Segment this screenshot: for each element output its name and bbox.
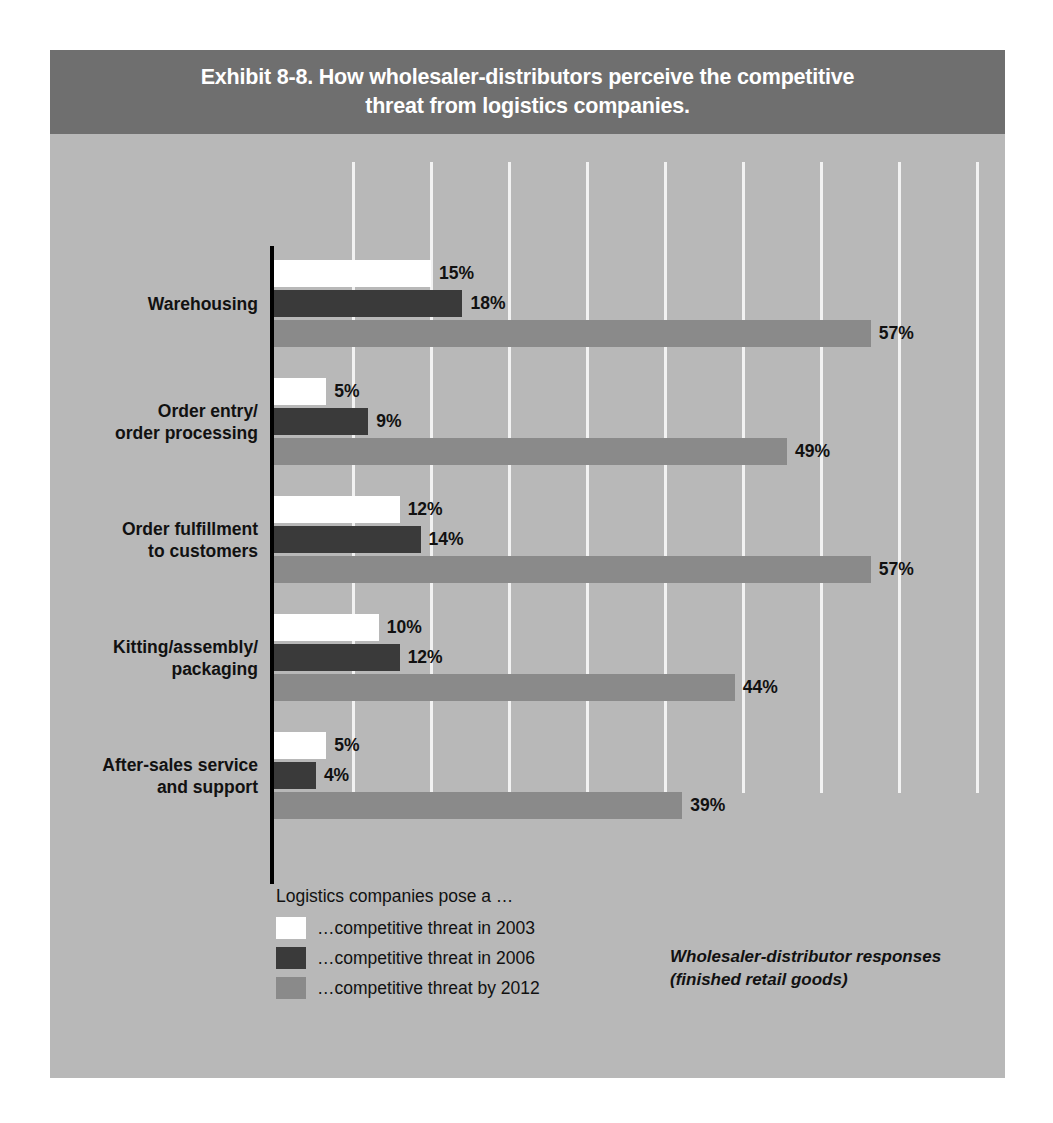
bar (274, 556, 871, 583)
bar-value-label: 9% (376, 411, 401, 432)
bar (274, 260, 431, 287)
bar (274, 438, 787, 465)
bar-value-label: 49% (795, 441, 830, 462)
bar (274, 408, 368, 435)
bar-row: 44% (274, 674, 778, 701)
bar-value-label: 5% (334, 381, 359, 402)
bar (274, 378, 326, 405)
legend-item-label: …competitive threat in 2003 (317, 918, 535, 939)
category-axis-label: Kitting/assembly/ packaging (50, 600, 258, 718)
bar (274, 290, 462, 317)
bar (274, 644, 400, 671)
bar-row: 57% (274, 320, 914, 347)
bar-row: 12% (274, 644, 443, 671)
chart-category-group: After-sales service and support5%4%39% (50, 718, 1005, 836)
legend-item-label: …competitive threat by 2012 (317, 978, 540, 999)
category-axis-label: Warehousing (50, 246, 258, 364)
bar-value-label: 10% (387, 617, 422, 638)
bar-value-label: 57% (879, 559, 914, 580)
bar (274, 496, 400, 523)
category-axis-label: Order entry/ order processing (50, 364, 258, 482)
bar-value-label: 5% (334, 735, 359, 756)
bar-value-label: 15% (439, 263, 474, 284)
bar-row: 57% (274, 556, 914, 583)
bar (274, 674, 735, 701)
bar-row: 10% (274, 614, 422, 641)
chart-category-group: Order fulfillment to customers12%14%57% (50, 482, 1005, 600)
bar-row: 15% (274, 260, 474, 287)
bar-row: 14% (274, 526, 464, 553)
bar-row: 5% (274, 732, 360, 759)
exhibit-title-band: Exhibit 8-8. How wholesaler-distributors… (50, 50, 1005, 134)
bar-value-label: 14% (429, 529, 464, 550)
chart-category-group: Warehousing15%18%57% (50, 246, 1005, 364)
bar (274, 732, 326, 759)
legend-title: Logistics companies pose a … (276, 886, 976, 907)
legend-item[interactable]: …competitive threat in 2003 (276, 913, 976, 943)
legend-item-label: …competitive threat in 2006 (317, 948, 535, 969)
bar-value-label: 4% (324, 765, 349, 786)
bar (274, 762, 316, 789)
bar-row: 39% (274, 792, 725, 819)
page-title: Exhibit 8-8. How wholesaler-distributors… (175, 63, 881, 121)
bar-value-label: 39% (690, 795, 725, 816)
chart-category-group: Kitting/assembly/ packaging10%12%44% (50, 600, 1005, 718)
bar-value-label: 12% (408, 499, 443, 520)
category-axis-label: Order fulfillment to customers (50, 482, 258, 600)
bar-value-label: 57% (879, 323, 914, 344)
exhibit-panel: Exhibit 8-8. How wholesaler-distributors… (50, 50, 1005, 1078)
source-note: Wholesaler-distributor responses (finish… (670, 946, 1000, 992)
bar (274, 614, 379, 641)
bar (274, 320, 871, 347)
bar-row: 18% (274, 290, 505, 317)
legend-swatch-icon (276, 947, 306, 969)
bar (274, 792, 682, 819)
bar-row: 9% (274, 408, 402, 435)
bar-value-label: 18% (470, 293, 505, 314)
chart-plot-area: Warehousing15%18%57%Order entry/ order p… (50, 134, 1005, 1078)
category-axis-label: After-sales service and support (50, 718, 258, 836)
bar-row: 12% (274, 496, 443, 523)
legend-swatch-icon (276, 977, 306, 999)
bar-value-label: 12% (408, 647, 443, 668)
chart-category-group: Order entry/ order processing5%9%49% (50, 364, 1005, 482)
bar-row: 5% (274, 378, 360, 405)
bar-row: 49% (274, 438, 830, 465)
bar-value-label: 44% (743, 677, 778, 698)
bar (274, 526, 421, 553)
bar-row: 4% (274, 762, 349, 789)
legend-swatch-icon (276, 917, 306, 939)
